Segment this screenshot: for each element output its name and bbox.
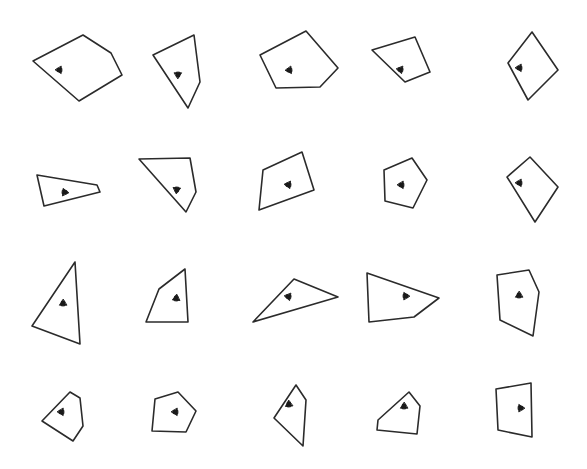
polygon-grid-figure — [0, 0, 587, 469]
figure-canvas — [0, 0, 587, 469]
polygon-outline — [496, 383, 532, 437]
shape-cell — [496, 383, 532, 437]
